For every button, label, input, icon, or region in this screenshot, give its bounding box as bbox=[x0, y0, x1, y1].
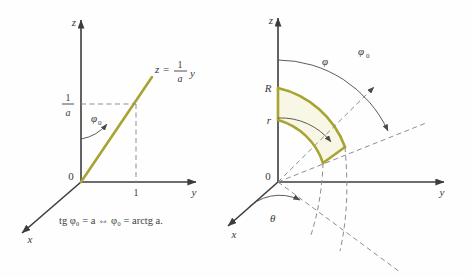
left-angle-label: φ bbox=[91, 112, 97, 124]
left-y-axis-label: y bbox=[191, 186, 197, 198]
left-equation-denominator: a bbox=[178, 73, 183, 84]
left-x-axis-label: x bbox=[27, 233, 33, 245]
right-z-axis-label: z bbox=[268, 14, 274, 26]
left-angle-subscript: 0 bbox=[98, 119, 102, 127]
right-outer-radius-label: R bbox=[264, 82, 272, 94]
right-theta-label: θ bbox=[270, 212, 276, 224]
left-origin-label: 0 bbox=[68, 170, 74, 182]
left-equation-equals: = bbox=[163, 63, 169, 75]
diagram-svg: z y x 0 1 1 a φ 0 z = 1 a y tg φ₀ = a bbox=[0, 0, 471, 277]
left-equation-numerator: 1 bbox=[178, 59, 183, 70]
figure-container: z y x 0 1 1 a φ 0 z = 1 a y tg φ₀ = a bbox=[0, 0, 471, 277]
left-z-tick-denominator: a bbox=[66, 107, 71, 118]
left-z-axis-label: z bbox=[71, 16, 77, 28]
right-phi0-subscript: 0 bbox=[366, 52, 370, 60]
left-z-tick-numerator: 1 bbox=[66, 92, 71, 103]
right-x-axis-label: x bbox=[231, 228, 237, 240]
right-origin-label: 0 bbox=[265, 170, 271, 182]
right-phi-label: φ bbox=[322, 55, 328, 67]
right-y-axis-label: y bbox=[439, 186, 445, 198]
left-equation-variable: y bbox=[189, 67, 195, 79]
left-formula: tg φ₀ = a ⇔ φ₀ = arctg a. bbox=[59, 215, 163, 226]
right-phi0-label: φ bbox=[358, 45, 364, 57]
right-inner-radius-label: r bbox=[267, 114, 272, 126]
left-equation-lhs: z bbox=[154, 63, 160, 75]
left-y-tick-label: 1 bbox=[134, 187, 139, 198]
